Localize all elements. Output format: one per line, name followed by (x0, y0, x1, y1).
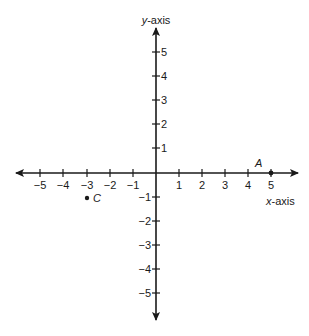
x-tick-label: 5 (268, 179, 274, 191)
y-tick-label: 1 (161, 142, 167, 154)
y-tick-label: −1 (138, 191, 151, 203)
y-tick-label: 3 (161, 94, 167, 106)
point-a-dot (269, 171, 274, 176)
x-axis-title: x-axis (265, 195, 295, 207)
x-tick-label: −1 (127, 179, 140, 191)
point-a-label: A (254, 157, 262, 169)
x-axis-tick-labels: −5 −4 −3 −2 −1 1 2 3 4 5 (34, 179, 274, 191)
coordinate-plane: −5 −4 −3 −2 −1 1 2 3 4 5 5 4 3 2 1 −1 −2… (0, 0, 309, 336)
y-tick-label: −3 (138, 239, 151, 251)
x-tick-label: −3 (81, 179, 94, 191)
y-tick-label: −5 (138, 287, 151, 299)
y-tick-label: 4 (161, 70, 167, 82)
x-tick-label: −4 (57, 179, 70, 191)
x-tick-label: 2 (199, 179, 205, 191)
point-c-label: C (93, 192, 101, 204)
y-tick-label: −4 (138, 263, 151, 275)
x-tick-label: 1 (176, 179, 182, 191)
point-c-dot (85, 196, 89, 200)
y-tick-label: 2 (161, 118, 167, 130)
y-tick-label: 5 (161, 46, 167, 58)
x-tick-label: 3 (222, 179, 228, 191)
y-tick-label: −2 (138, 215, 151, 227)
x-tick-label: −2 (104, 179, 117, 191)
y-axis-title: y-axis (141, 14, 171, 26)
x-tick-label: −5 (34, 179, 47, 191)
x-tick-label: 4 (245, 179, 251, 191)
